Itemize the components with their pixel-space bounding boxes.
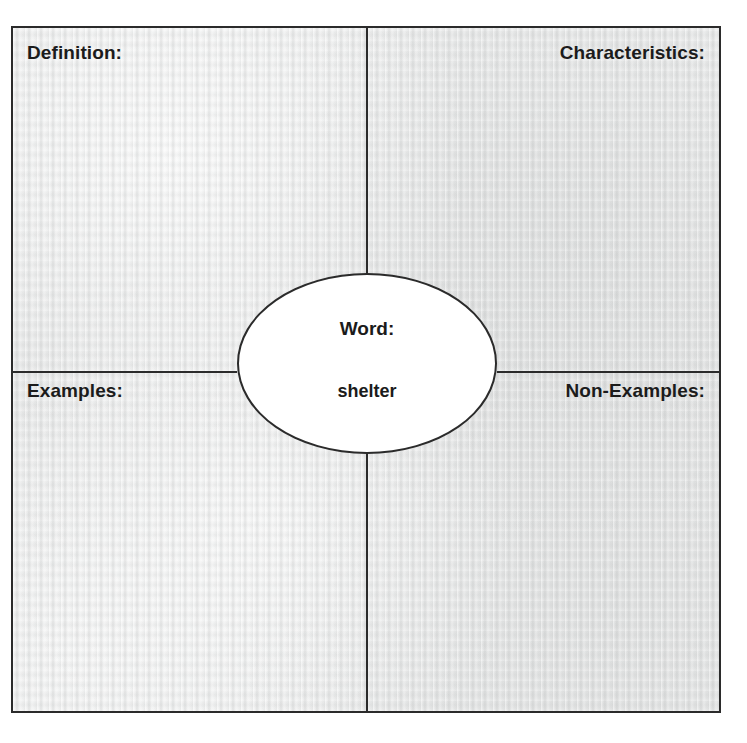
center-word-oval: Word: shelter [237, 273, 497, 454]
word-label: Word: [239, 318, 495, 340]
horizontal-divider-right [497, 371, 719, 373]
vertical-divider-bottom [366, 452, 368, 711]
quadrant-label-non-examples: Non-Examples: [565, 380, 705, 402]
quadrant-label-examples: Examples: [27, 380, 123, 402]
worksheet-page: Definition: Characteristics: Examples: N… [0, 0, 747, 743]
quadrant-label-definition: Definition: [27, 42, 122, 64]
vertical-divider-top [366, 28, 368, 273]
horizontal-divider-left [13, 371, 237, 373]
quadrant-label-characteristics: Characteristics: [560, 42, 705, 64]
word-value: shelter [239, 381, 495, 402]
frayer-model-organizer: Definition: Characteristics: Examples: N… [11, 26, 721, 713]
